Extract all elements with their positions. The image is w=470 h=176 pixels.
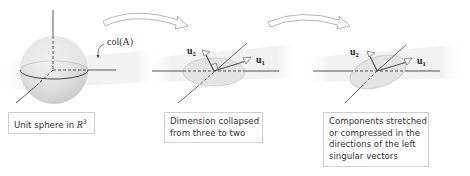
u1-label: u1 bbox=[256, 54, 265, 66]
curved-arrow-icon bbox=[268, 14, 350, 29]
col-a-pointer-icon bbox=[98, 44, 104, 56]
u2-label: u2 bbox=[350, 46, 359, 58]
u1-label: u1 bbox=[417, 55, 426, 67]
sphere-panel bbox=[0, 10, 160, 104]
caption-components-stretched: Components stretched or compressed in th… bbox=[323, 112, 429, 167]
svd-geometry-diagram: col(A) u2 u1 u2 u1 Unit sphere in R3 Dim… bbox=[0, 0, 470, 176]
collapsed-panel bbox=[148, 43, 300, 103]
caption-dimension-collapsed: Dimension collapsed from three to two bbox=[164, 112, 263, 143]
col-a-label: col(A) bbox=[107, 36, 133, 47]
stretched-panel bbox=[305, 44, 465, 103]
curved-arrow-icon bbox=[103, 13, 188, 29]
caption-unit-sphere: Unit sphere in R3 bbox=[8, 112, 95, 134]
u2-label: u2 bbox=[187, 45, 196, 57]
